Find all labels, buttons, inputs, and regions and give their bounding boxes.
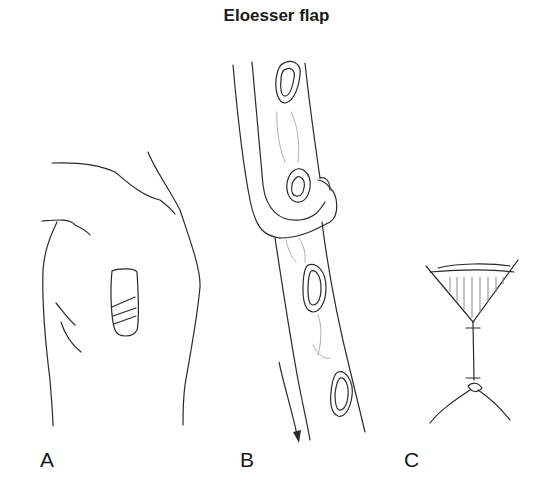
- rib-hole-icon: [303, 264, 326, 312]
- illustration: [0, 0, 553, 497]
- panel-label-b: B: [240, 448, 254, 472]
- panel-label-a: A: [40, 448, 54, 472]
- rib-hole-icon: [331, 372, 353, 417]
- panel-a-drawing: [42, 152, 200, 426]
- flap-window-icon: [111, 269, 139, 336]
- panel-c-hatching: [450, 277, 503, 318]
- panel-b-drawing: [233, 62, 365, 440]
- rib-hole-icon: [276, 62, 300, 103]
- rib-hole-icon: [287, 169, 310, 202]
- panel-b-faint-ribs: [277, 112, 330, 358]
- direction-arrow-icon: [279, 362, 301, 443]
- panel-label-c: C: [404, 448, 419, 472]
